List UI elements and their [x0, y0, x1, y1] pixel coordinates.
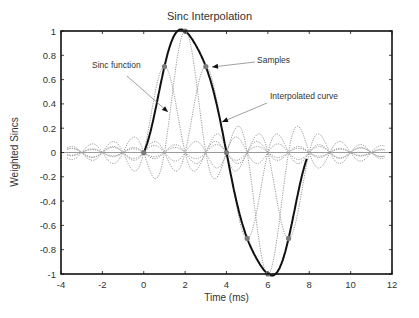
x-tick-label: 2	[182, 279, 187, 290]
sample-point	[141, 150, 146, 155]
sample-point	[286, 236, 291, 241]
x-tick-label: 0	[141, 279, 146, 290]
x-tick-label: -4	[57, 279, 65, 290]
x-tick-label: 6	[265, 279, 270, 290]
y-tick-label: 1	[51, 26, 56, 37]
sample-point	[203, 64, 208, 69]
y-tick-label: 0.8	[43, 50, 56, 61]
y-tick-label: -0.8	[40, 244, 56, 255]
y-tick-label: 0.6	[43, 74, 56, 85]
arrow-line	[222, 103, 267, 122]
y-tick-label: 0.4	[43, 98, 56, 109]
arrow-line	[212, 62, 255, 67]
x-tick-label: 4	[224, 279, 229, 290]
y-tick-label: 0	[51, 147, 56, 158]
sample-point	[245, 236, 250, 241]
x-tick-label: 12	[387, 279, 398, 290]
x-tick-label: 8	[307, 279, 312, 290]
x-tick-label: -2	[98, 279, 106, 290]
sample-point	[162, 64, 167, 69]
y-tick-label: 0.2	[43, 123, 56, 134]
arrow-head-icon	[222, 117, 228, 122]
annotation-arrows	[127, 62, 267, 122]
sinc-interpolation-chart: -4-202468101210.80.60.40.20-0.2-0.4-0.6-…	[0, 0, 419, 318]
y-tick-label: -0.6	[40, 220, 56, 231]
y-tick-label: -0.2	[40, 171, 56, 182]
y-tick-label: -1	[48, 269, 56, 280]
y-tick-label: -0.4	[40, 196, 56, 207]
x-tick-label: 10	[345, 279, 356, 290]
sample-point	[224, 150, 229, 155]
arrow-head-icon	[212, 64, 218, 69]
